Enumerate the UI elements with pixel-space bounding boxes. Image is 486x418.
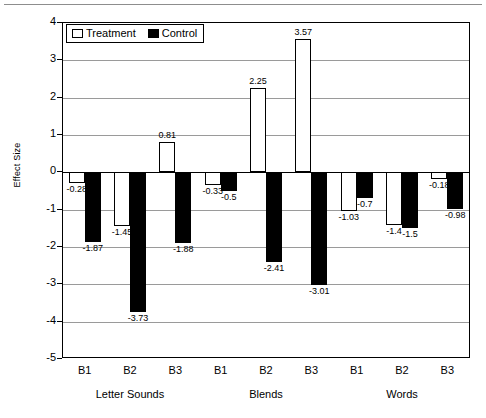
- y-tick-mark: [57, 321, 62, 322]
- bar-value-label: -3.73: [121, 313, 155, 323]
- bar-value-label: -0.98: [438, 210, 472, 220]
- x-tick-label: B3: [291, 364, 331, 376]
- x-tick-label: B1: [201, 364, 241, 376]
- y-tick-mark: [57, 22, 62, 23]
- y-tick-label: 0: [30, 165, 56, 176]
- bar-control-0: [85, 172, 101, 242]
- effect-size-bar-chart: Effect Size -0.28-1.87-1.45-3.730.81-1.8…: [0, 0, 486, 418]
- bar-treatment-0: [69, 172, 85, 182]
- bar-treatment-4: [250, 88, 266, 172]
- bar-control-1: [130, 172, 146, 311]
- legend-item-treatment: Treatment: [72, 27, 136, 39]
- legend-label: Control: [162, 27, 197, 39]
- y-tick-label: 3: [30, 53, 56, 64]
- y-tick-label: -2: [30, 240, 56, 251]
- legend-label: Treatment: [86, 27, 136, 39]
- y-tick-label: -3: [30, 277, 56, 288]
- bar-treatment-3: [205, 172, 221, 184]
- bar-treatment-8: [431, 172, 447, 179]
- plot-area: -0.28-1.87-1.45-3.730.81-1.88-0.33-0.52.…: [62, 22, 470, 358]
- x-tick-label: B1: [65, 364, 105, 376]
- legend-swatch-icon-treatment: [72, 29, 83, 38]
- bar-value-label: -0.5: [212, 192, 246, 202]
- y-tick-mark: [57, 97, 62, 98]
- chart-legend: TreatmentControl: [66, 24, 204, 43]
- y-tick-label: -4: [30, 315, 56, 326]
- legend-item-control: Control: [148, 27, 197, 39]
- x-tick-label: B2: [246, 364, 286, 376]
- y-axis-title: Effect Size: [12, 120, 22, 210]
- x-group-label: Words: [342, 388, 462, 400]
- y-tick-label: 1: [30, 128, 56, 139]
- bar-control-7: [402, 172, 418, 228]
- bar-value-label: 3.57: [286, 27, 320, 37]
- gridline: [63, 60, 469, 61]
- bar-value-label: -1.03: [332, 212, 366, 222]
- bar-value-label: 2.25: [241, 76, 275, 86]
- bar-treatment-7: [386, 172, 402, 224]
- x-tick-label: B2: [382, 364, 422, 376]
- x-tick-label: B3: [155, 364, 195, 376]
- bar-value-label: 0.81: [150, 130, 184, 140]
- bar-control-2: [175, 172, 191, 242]
- bar-control-6: [357, 172, 373, 198]
- bar-value-label: -2.41: [257, 263, 291, 273]
- x-group-label: Letter Sounds: [70, 388, 190, 400]
- bar-treatment-1: [114, 172, 130, 226]
- gridline: [63, 135, 469, 136]
- bar-control-5: [311, 172, 327, 284]
- y-tick-label: -5: [30, 352, 56, 363]
- x-tick-label: B3: [427, 364, 467, 376]
- bar-value-label: -0.7: [348, 199, 382, 209]
- bar-treatment-2: [159, 142, 175, 172]
- y-tick-mark: [57, 171, 62, 172]
- y-tick-label: 4: [30, 16, 56, 27]
- y-tick-mark: [57, 209, 62, 210]
- bar-value-label: -1.87: [76, 243, 110, 253]
- bar-value-label: -1.5: [393, 229, 427, 239]
- x-tick-label: B2: [110, 364, 150, 376]
- y-tick-label: -1: [30, 203, 56, 214]
- y-tick-mark: [57, 358, 62, 359]
- bar-value-label: -3.01: [302, 286, 336, 296]
- y-tick-label: 2: [30, 91, 56, 102]
- gridline: [63, 98, 469, 99]
- bar-control-8: [447, 172, 463, 209]
- y-tick-mark: [57, 134, 62, 135]
- gridline: [63, 284, 469, 285]
- bar-control-4: [266, 172, 282, 262]
- y-tick-mark: [57, 246, 62, 247]
- x-tick-label: B1: [337, 364, 377, 376]
- y-tick-mark: [57, 283, 62, 284]
- plot-inner: -0.28-1.87-1.45-3.730.81-1.88-0.33-0.52.…: [63, 23, 469, 357]
- x-group-label: Blends: [206, 388, 326, 400]
- bar-control-3: [221, 172, 237, 191]
- y-tick-mark: [57, 59, 62, 60]
- bar-value-label: -1.88: [166, 244, 200, 254]
- legend-swatch-icon-control: [148, 29, 159, 38]
- bar-treatment-5: [295, 39, 311, 172]
